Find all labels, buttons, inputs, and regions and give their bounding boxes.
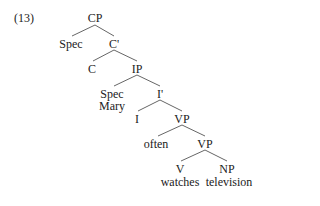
node-c: C [88, 63, 96, 75]
edge-cp-spec [72, 25, 95, 36]
edge-ibar-vp [160, 100, 182, 111]
edge-ibar-i [138, 100, 160, 111]
edge-vp-vp [182, 125, 205, 136]
node-c-bar: C' [109, 38, 119, 50]
node-v: V [176, 163, 185, 175]
edge-vp-np [205, 150, 227, 161]
node-np: NP [219, 163, 234, 175]
edge-ip-spec [114, 75, 137, 86]
edge-ip-ibar [137, 75, 160, 86]
node-cp: CP [88, 12, 103, 24]
node-i-bar: I' [157, 88, 163, 100]
node-ip: IP [132, 63, 143, 75]
edge-cbar-ip [114, 50, 137, 61]
edge-cbar-c [93, 50, 114, 61]
node-spec-cp: Spec [59, 38, 82, 50]
node-vp-upper: VP [174, 113, 189, 125]
leaf-often: often [144, 138, 169, 150]
leaf-watches: watches [161, 176, 200, 188]
edge-vp-often [158, 125, 182, 136]
node-vp-lower: VP [197, 138, 212, 150]
edge-cp-cbar [95, 25, 114, 36]
leaf-television: television [206, 176, 253, 188]
edge-vp-v [181, 150, 205, 161]
leaf-mary: Mary [99, 100, 125, 112]
node-i: I [135, 113, 139, 125]
